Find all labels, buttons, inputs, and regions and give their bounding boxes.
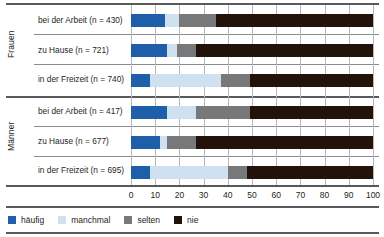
group-label-frauen: Frauen: [6, 36, 16, 58]
row-label-maenner-freizeit: in der Freizeit (n = 695): [38, 165, 128, 175]
bar-segment-selten: [221, 74, 250, 87]
x-tick-label-80: 80: [315, 190, 335, 200]
bar-segment-selten: [179, 14, 215, 27]
gridline-70: [300, 5, 301, 185]
bar-segment-häufig: [131, 136, 160, 149]
bar-row-3: [131, 106, 373, 119]
row-label-frauen-freizeit: in der Freizeit (n = 740): [38, 74, 128, 84]
bar-segment-selten: [196, 106, 249, 119]
bar-segment-nie: [196, 136, 373, 149]
x-tick-label-100: 100: [363, 190, 383, 200]
bar-segment-häufig: [131, 166, 150, 179]
gridline-60: [276, 5, 277, 185]
bar-segment-selten: [228, 166, 247, 179]
legend-label: manchmal: [71, 215, 110, 225]
legend-bottom-divider: [6, 232, 379, 234]
legend-swatch-icon-manchmal: [58, 216, 66, 224]
bar-segment-manchmal: [150, 166, 227, 179]
gridline-0: [131, 5, 132, 185]
bar-segment-manchmal: [167, 106, 196, 119]
legend-item-selten[interactable]: selten: [124, 215, 160, 225]
bar-segment-nie: [250, 106, 373, 119]
x-tick-label-10: 10: [145, 190, 165, 200]
bar-segment-nie: [250, 74, 373, 87]
bar-segment-manchmal: [165, 14, 180, 27]
x-tick-label-60: 60: [266, 190, 286, 200]
bar-segment-häufig: [131, 14, 165, 27]
gridline-20: [179, 5, 180, 185]
gridline-80: [325, 5, 326, 185]
bar-segment-manchmal: [167, 44, 177, 57]
x-tick-label-70: 70: [290, 190, 310, 200]
row-label-maenner-arbeit: bei der Arbeit (n = 417): [38, 106, 128, 116]
bar-row-5: [131, 166, 373, 179]
row-label-maenner-zuhause: zu Hause (n = 677): [38, 136, 128, 146]
x-tick-label-20: 20: [169, 190, 189, 200]
legend-item-nie[interactable]: nie: [174, 215, 198, 225]
x-tick-label-40: 40: [218, 190, 238, 200]
row-label-frauen-zuhause: zu Hause (n = 721): [38, 45, 128, 55]
bar-segment-nie: [247, 166, 373, 179]
x-tick-label-90: 90: [339, 190, 359, 200]
row-label-frauen-arbeit: bei der Arbeit (n = 430): [38, 15, 128, 25]
bar-segment-manchmal: [150, 74, 220, 87]
bar-segment-manchmal: [160, 136, 167, 149]
legend-swatch-icon-selten: [124, 216, 132, 224]
bar-row-1: [131, 44, 373, 57]
bar-row-4: [131, 136, 373, 149]
stacked-bar-chart: Frauen Männer bei der Arbeit (n = 430) z…: [0, 0, 384, 237]
gridline-40: [228, 5, 229, 185]
group-label-maenner: Männer: [6, 129, 16, 151]
legend-top-divider: [6, 206, 379, 208]
gridline-90: [349, 5, 350, 185]
bar-segment-nie: [216, 14, 373, 27]
bar-segment-häufig: [131, 44, 167, 57]
x-tick-label-50: 50: [242, 190, 262, 200]
plot-area: [131, 5, 373, 185]
bar-segment-nie: [196, 44, 373, 57]
bar-row-2: [131, 74, 373, 87]
legend-label: selten: [137, 215, 160, 225]
legend-label: häufig: [21, 215, 44, 225]
gridline-100: [373, 5, 374, 185]
bar-segment-häufig: [131, 74, 150, 87]
axis-divider: [6, 185, 379, 187]
x-tick-label-0: 0: [121, 190, 141, 200]
legend-swatch-icon-nie: [174, 216, 182, 224]
bar-segment-selten: [167, 136, 196, 149]
bar-segment-häufig: [131, 106, 167, 119]
legend-item-häufig[interactable]: häufig: [8, 215, 44, 225]
bar-segment-selten: [177, 44, 196, 57]
gridline-10: [155, 5, 156, 185]
bar-row-0: [131, 14, 373, 27]
gridline-50: [252, 5, 253, 185]
chart-legend: häufigmanchmalseltennie: [8, 212, 212, 228]
x-tick-label-30: 30: [194, 190, 214, 200]
legend-swatch-icon-häufig: [8, 216, 16, 224]
gridline-30: [204, 5, 205, 185]
legend-label: nie: [187, 215, 198, 225]
legend-item-manchmal[interactable]: manchmal: [58, 215, 110, 225]
